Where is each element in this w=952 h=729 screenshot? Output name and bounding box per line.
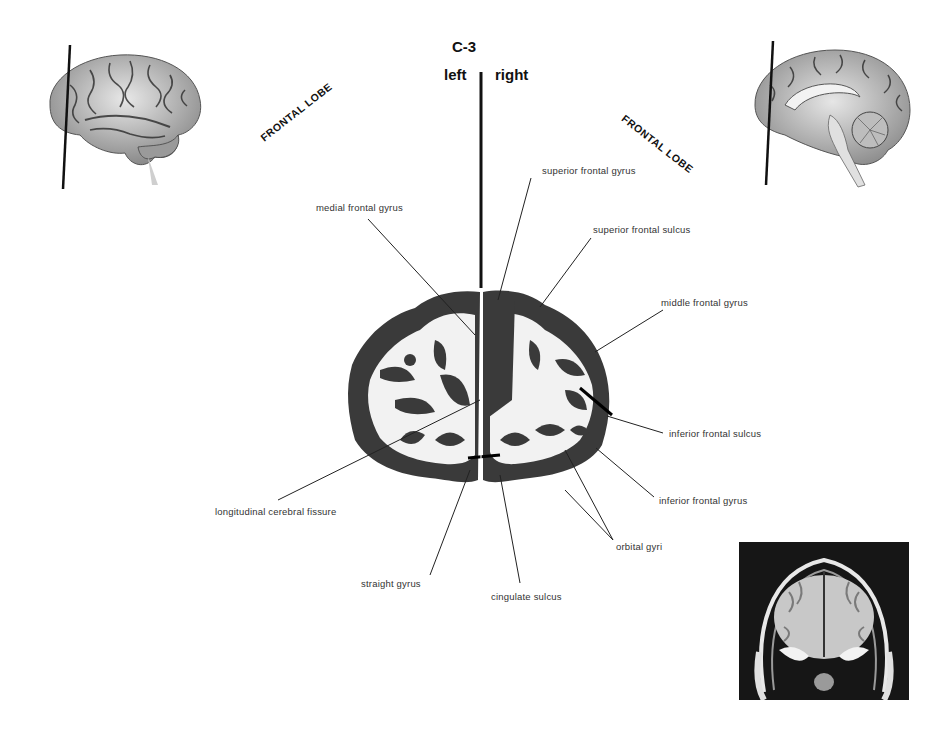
label-medial-frontal-gyrus: medial frontal gyrus [316, 202, 403, 213]
label-inferior-frontal-gyrus: inferior frontal gyrus [659, 495, 747, 506]
label-middle-frontal-gyrus: middle frontal gyrus [661, 297, 748, 308]
label-cingulate-sulcus: cingulate sulcus [491, 591, 562, 602]
coronal-mri-image [739, 542, 909, 700]
label-superior-frontal-sulcus: superior frontal sulcus [593, 224, 691, 235]
label-superior-frontal-gyrus: superior frontal gyrus [542, 165, 636, 176]
label-straight-gyrus: straight gyrus [361, 578, 421, 589]
label-orbital-gyri: orbital gyri [616, 541, 662, 552]
label-longitudinal-cerebral-fissure: longitudinal cerebral fissure [215, 506, 336, 517]
label-inferior-frontal-sulcus: inferior frontal sulcus [669, 428, 761, 439]
